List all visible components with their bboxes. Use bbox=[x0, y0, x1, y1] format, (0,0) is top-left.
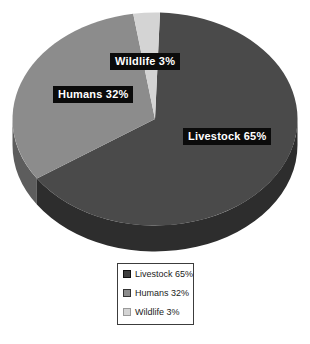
slice-label-livestock: Livestock 65% bbox=[183, 128, 271, 145]
legend-item-livestock: Livestock 65% bbox=[123, 269, 191, 279]
legend-swatch-humans-icon bbox=[123, 289, 131, 297]
legend-label-livestock: Livestock 65% bbox=[135, 269, 193, 279]
legend-swatch-wildlife-icon bbox=[123, 308, 131, 316]
legend-label-wildlife: Wildlife 3% bbox=[135, 307, 180, 317]
slice-label-humans: Humans 32% bbox=[53, 86, 133, 103]
legend-box: Livestock 65% Humans 32% Wildlife 3% bbox=[117, 263, 194, 325]
legend-label-humans: Humans 32% bbox=[135, 288, 189, 298]
legend-item-humans: Humans 32% bbox=[123, 288, 191, 298]
pie-chart-figure: Wildlife 3% Humans 32% Livestock 65% Liv… bbox=[0, 0, 310, 344]
legend-item-wildlife: Wildlife 3% bbox=[123, 307, 191, 317]
legend-swatch-livestock-icon bbox=[123, 270, 131, 278]
slice-label-wildlife: Wildlife 3% bbox=[110, 53, 180, 70]
